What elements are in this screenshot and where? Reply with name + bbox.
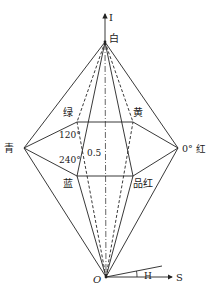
white-vertex-dot: [104, 41, 107, 44]
white-label: 白: [109, 32, 119, 44]
green-label: 绿: [63, 106, 73, 118]
hue-label: H: [144, 271, 152, 281]
hue-angle-arc: [137, 271, 138, 277]
angle-240-label: 240°: [59, 155, 81, 165]
origin-label: O: [93, 274, 101, 285]
mid-value-label: 0.5: [87, 148, 102, 158]
edge-origin-magenta: [106, 176, 133, 277]
hue-direction-line: [106, 266, 162, 277]
intensity-label: I: [109, 12, 113, 23]
edge-origin-blue: [77, 176, 106, 277]
center-axis: [105, 44, 106, 276]
saturation-label: S: [176, 272, 183, 283]
origin-dot: [105, 276, 108, 279]
hsi-double-cone-diagram: I 白 绿 黄 青 0° 红 蓝 品红 120° 240° 0.5 O H S: [0, 0, 212, 296]
edge-origin-yellow: [106, 122, 133, 277]
cyan-label: 青: [4, 142, 14, 154]
yellow-label: 黄: [133, 106, 143, 118]
blue-label: 蓝: [63, 178, 73, 189]
magenta-label: 品红: [133, 177, 153, 189]
angle-120-label: 120°: [59, 130, 81, 140]
red-label: 0° 红: [182, 143, 206, 154]
